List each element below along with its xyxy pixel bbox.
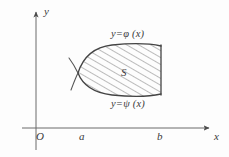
y-axis-label: y bbox=[44, 6, 49, 17]
origin-label: O bbox=[36, 131, 44, 142]
figure-canvas: y=φ (x) y=ψ (x) S O a b x y bbox=[0, 0, 229, 157]
diagram-svg bbox=[0, 0, 229, 157]
left-vertex-overshoot-upper bbox=[69, 58, 78, 73]
tick-label-a: a bbox=[79, 131, 85, 142]
lower-curve-label: y=ψ (x) bbox=[111, 99, 145, 110]
upper-curve-label: y=φ (x) bbox=[111, 29, 144, 40]
region-area-label: S bbox=[121, 67, 127, 78]
x-axis-label: x bbox=[214, 131, 219, 142]
left-vertex-overshoot-lower bbox=[71, 73, 78, 90]
tick-label-b: b bbox=[157, 131, 163, 142]
